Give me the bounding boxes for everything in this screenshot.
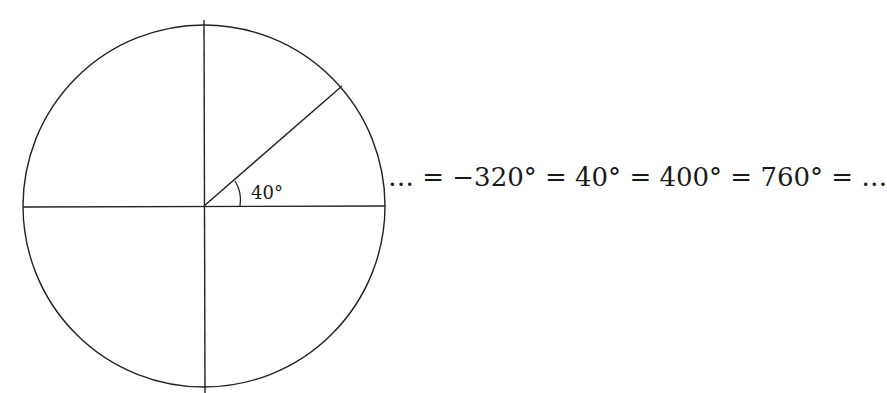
angle-arc: [235, 181, 240, 206]
angle-label: 40°: [251, 182, 283, 203]
coterminal-equation: … = −320° = 40° = 400° = 760° = …: [388, 162, 887, 192]
vertical-axis: [204, 20, 205, 393]
